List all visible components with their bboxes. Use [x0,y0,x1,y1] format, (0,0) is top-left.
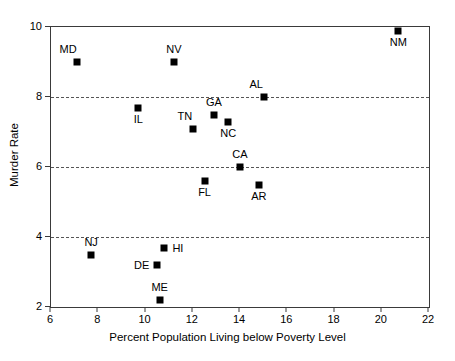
x-tick-label-22: 22 [422,313,434,325]
x-tick-label-10: 10 [138,313,150,325]
y-axis-label: Murder Rate [8,100,20,210]
data-label-ar: AR [251,191,266,202]
x-tick-16 [286,307,287,312]
data-label-nj: NJ [84,237,97,248]
x-tick-12 [191,307,192,312]
data-point-nm[interactable] [395,27,402,34]
y-tick-label-6: 6 [36,160,42,172]
data-label-al: AL [250,79,263,90]
data-label-nm: NM [390,37,407,48]
y-tick-4 [45,236,50,237]
data-point-nv[interactable] [170,59,177,66]
data-point-fl[interactable] [201,178,208,185]
data-label-il: IL [134,114,143,125]
data-point-il[interactable] [135,104,142,111]
y-tick-label-2: 2 [36,300,42,312]
data-point-tn[interactable] [189,125,196,132]
data-point-hi[interactable] [161,244,168,251]
x-tick-label-12: 12 [186,313,198,325]
data-label-tn: TN [178,111,193,122]
data-label-md: MD [60,44,77,55]
data-point-ar[interactable] [255,181,262,188]
data-point-md[interactable] [73,59,80,66]
y-tick-10 [45,26,50,27]
plot-area: MDNVNMALILGATNNCCAFLARHINJDEME [50,26,430,308]
x-tick-6 [50,307,51,312]
x-tick-label-20: 20 [375,313,387,325]
gridline-y-4 [51,237,429,238]
y-tick-8 [45,96,50,97]
data-label-nv: NV [166,44,181,55]
x-tick-22 [428,307,429,312]
y-tick-label-10: 10 [30,20,42,32]
data-label-ca: CA [232,149,247,160]
data-label-ga: GA [206,97,222,108]
x-tick-8 [97,307,98,312]
y-tick-label-8: 8 [36,90,42,102]
x-tick-label-6: 6 [47,313,53,325]
data-label-nc: NC [220,128,236,139]
x-tick-20 [380,307,381,312]
x-tick-18 [333,307,334,312]
data-point-de[interactable] [154,262,161,269]
data-point-me[interactable] [156,297,163,304]
x-tick-label-16: 16 [280,313,292,325]
x-axis: 6810121416182022 [50,307,428,331]
y-tick-6 [45,166,50,167]
data-label-hi: HI [172,242,183,253]
x-tick-label-8: 8 [94,313,100,325]
data-point-nc[interactable] [225,118,232,125]
y-tick-label-4: 4 [36,230,42,242]
data-label-me: ME [151,282,168,293]
x-tick-14 [239,307,240,312]
x-tick-label-14: 14 [233,313,245,325]
x-axis-label: Percent Population Living below Poverty … [0,331,455,343]
data-label-de: DE [134,260,149,271]
scatter-plot-figure: MDNVNMALILGATNNCCAFLARHINJDEME 246810 68… [0,0,455,361]
data-point-ga[interactable] [211,111,218,118]
x-tick-label-18: 18 [327,313,339,325]
data-point-nj[interactable] [88,251,95,258]
data-point-al[interactable] [260,94,267,101]
data-label-fl: FL [198,187,211,198]
gridline-y-8 [51,97,429,98]
x-tick-10 [144,307,145,312]
data-point-ca[interactable] [237,164,244,171]
